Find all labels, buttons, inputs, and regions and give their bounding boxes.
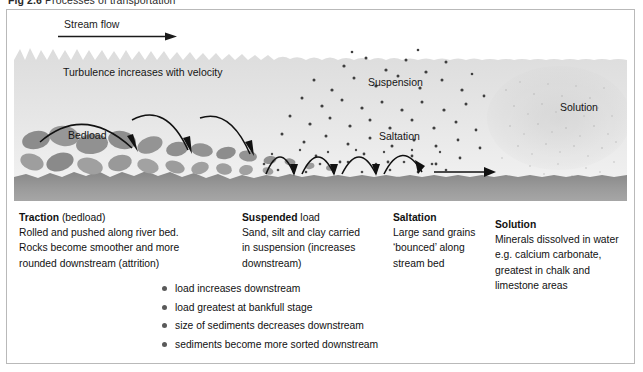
caption-saltation: Saltation Large sand grains ‘bounced’ al… [393,210,493,271]
caption-solution-heading: Solution [495,217,643,232]
caption-solution: Solution Minerals dissolved in water e.g… [495,217,643,293]
caption-traction-line2: Rocks become smoother and more [19,240,234,255]
bullet-dot-icon [162,286,167,291]
caption-suspended-heading: Suspended load [242,210,387,225]
caption-suspended-heading-bold: Suspended [242,212,298,223]
caption-traction-heading: Traction (bedload) [19,210,234,225]
figure-title: Fig 2.6 Processes of transportation [8,0,176,6]
caption-suspended-line1: Sand, silt and clay carried [242,225,387,240]
caption-traction-heading-bold: Traction [19,212,59,223]
caption-saltation-line1: Large sand grains [393,225,493,240]
list-item-label: load increases downstream [175,280,300,299]
caption-traction-line1: Rolled and pushed along river bed. [19,225,234,240]
caption-traction: Traction (bedload) Rolled and pushed alo… [19,210,234,271]
figure-number: Fig 2.6 [8,0,42,6]
figure-root: Fig 2.6 Processes of transportation Stre… [0,0,643,372]
caption-saltation-heading: Saltation [393,210,493,225]
caption-suspended: Suspended load Sand, silt and clay carri… [242,210,387,271]
list-item: load greatest at bankfull stage [162,299,378,318]
list-item: sediments become more sorted downstream [162,336,378,355]
list-item: size of sediments decreases downstream [162,317,378,336]
list-item-label: sediments become more sorted downstream [175,336,378,355]
list-item-label: size of sediments decreases downstream [175,317,364,336]
river-svg [14,46,627,201]
caption-suspended-heading-suffix: load [298,212,320,223]
stream-flow-label: Stream flow [64,18,119,30]
figure-title-text: Processes of transportation [45,0,176,6]
caption-traction-heading-suffix: (bedload) [59,212,105,223]
summary-bullet-list: load increases downstream load greatest … [162,280,378,354]
bullet-dot-icon [162,323,167,328]
bullet-dot-icon [162,342,167,347]
caption-solution-line1: Minerals dissolved in water [495,232,643,247]
caption-traction-line3: rounded downstream (attrition) [19,256,234,271]
river-cross-section [14,46,627,201]
bullet-dot-icon [162,305,167,310]
stream-flow-arrow-icon [58,31,180,43]
caption-solution-line3: greatest in chalk and [495,263,643,278]
caption-solution-line4: limestone areas [495,278,643,293]
caption-saltation-line3: stream bed [393,256,493,271]
caption-suspended-line2: in suspension (increases [242,240,387,255]
caption-suspended-line3: downstream) [242,256,387,271]
list-item: load increases downstream [162,280,378,299]
list-item-label: load greatest at bankfull stage [175,299,312,318]
caption-saltation-line2: ‘bounced’ along [393,240,493,255]
caption-solution-line2: e.g. calcium carbonate, [495,247,643,262]
